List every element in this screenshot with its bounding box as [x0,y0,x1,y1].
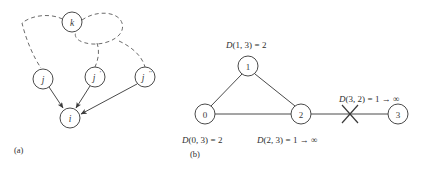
link-0-1 [211,74,242,106]
distance-label-1-3-args: (1, 3) [233,40,253,50]
panel-a-group: k j j ' j '' i [14,12,155,155]
dashed-path-k-to-j-double-prime [119,41,145,67]
node-1-label: 1 [246,62,251,72]
distance-label-3-2-equals: = [368,94,373,104]
figure-root: k j j ' j '' i [0,0,432,169]
node-j[interactable]: j [33,69,53,89]
panel-label-b: (b) [190,149,200,159]
node-3[interactable]: 3 [388,104,408,124]
distance-label-0-3-equals: = [211,135,216,145]
distance-label-0-3-args: (0, 3) [189,135,209,145]
link-1-2 [255,74,295,106]
distance-label-3-2-value: 1 → ∞ [375,94,399,104]
node-k[interactable]: k [62,12,82,32]
node-1[interactable]: 1 [238,56,258,76]
node-j-prime[interactable]: j ' [85,67,105,87]
distance-label-2-3-value: 1 → ∞ [293,135,317,145]
distance-label-1-3-value: 2 [262,40,267,50]
distance-label-1-3: D(1, 3)=2 [225,40,267,50]
node-j-double-prime-mark: '' [149,69,152,77]
node-j-double-prime-circle [135,67,155,87]
node-0[interactable]: 0 [195,104,215,124]
node-3-label: 3 [396,110,401,120]
arrow-j-to-i [49,87,63,108]
node-0-label: 0 [203,110,208,120]
distance-label-2-3-equals: = [286,135,291,145]
distance-label-2-3: D(2, 3)=1 → ∞ [256,135,318,145]
arrow-j-prime-to-i [76,86,90,108]
arrow-j-double-prime-to-i [81,84,137,114]
distance-label-3-2-args: (3, 2) [346,94,366,104]
node-i-label: i [69,114,72,124]
node-j-double-prime[interactable]: j '' [135,67,155,87]
distance-label-2-3-args: (2, 3) [264,135,284,145]
node-2[interactable]: 2 [291,104,311,124]
figure-canvas: k j j ' j '' i [0,0,432,169]
dashed-path-k-loop [75,13,122,44]
node-2-label: 2 [299,110,304,120]
node-i[interactable]: i [60,108,80,128]
distance-label-3-2: D(3, 2)=1 → ∞ [338,94,400,104]
distance-label-0-3-value: 2 [218,135,223,145]
panel-label-a: (a) [14,145,24,155]
distance-label-1-3-equals: = [255,40,260,50]
dashed-path-k-to-j [22,16,63,68]
dashed-path-k-to-j-prime [95,43,98,67]
distance-label-0-3: D(0, 3)=2 [181,135,223,145]
panel-b-group: 0 1 2 3 D(1, 3)=2 D(0, [181,40,408,159]
